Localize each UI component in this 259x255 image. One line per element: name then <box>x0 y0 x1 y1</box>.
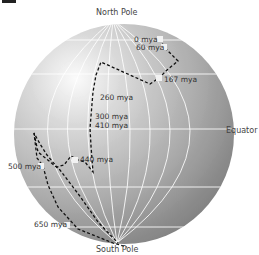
label-260-mya: 260 mya <box>100 94 133 102</box>
label-650-mya: 650 mya <box>34 221 67 229</box>
north-pole-label: North Pole <box>96 9 138 17</box>
south-pole-label: South Pole <box>96 246 138 254</box>
label-60-mya: 60 mya <box>136 44 164 52</box>
polar-wander-diagram: North Pole South Pole Equator 0 mya 60 m… <box>0 0 259 255</box>
globe-graphic <box>0 0 259 255</box>
label-167-mya: 167 mya <box>164 76 197 84</box>
label-440-mya: 440 mya <box>80 156 113 164</box>
label-500-mya: 500 mya <box>8 163 41 171</box>
label-300-mya: 300 mya <box>95 113 128 121</box>
label-410-mya: 410 mya <box>95 122 128 130</box>
equator-label: Equator <box>226 127 257 135</box>
